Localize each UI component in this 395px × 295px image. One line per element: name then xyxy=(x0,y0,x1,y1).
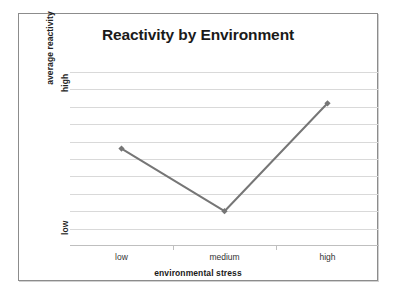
x-axis-tick-label: medium xyxy=(209,252,239,262)
x-axis-tick-label: high xyxy=(319,252,335,262)
x-axis-tick-label: low xyxy=(115,252,128,262)
series-markers xyxy=(118,100,330,214)
y-axis-tick-label-high: high xyxy=(60,74,70,92)
y-axis-title: average reactivity xyxy=(45,0,57,108)
y-axis-tick-label-low: low xyxy=(60,221,70,235)
chart-frame: Reactivity by Environment average reacti… xyxy=(18,13,378,281)
chart-title: Reactivity by Environment xyxy=(19,26,377,44)
x-axis-tick-mark xyxy=(173,246,174,250)
plot-area xyxy=(70,72,379,246)
data-series-line xyxy=(70,72,379,246)
series-polyline xyxy=(122,103,328,211)
x-axis-tick-mark xyxy=(276,246,277,250)
x-axis-title: environmental stress xyxy=(19,268,377,278)
